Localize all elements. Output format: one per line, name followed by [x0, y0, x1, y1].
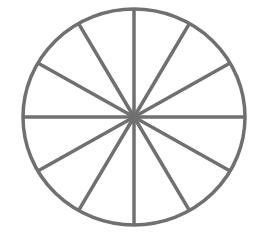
- divided-circle-diagram: [0, 0, 259, 239]
